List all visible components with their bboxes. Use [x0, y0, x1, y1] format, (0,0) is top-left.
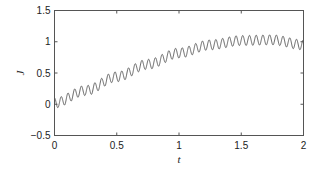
y-axis-ticks: −0.500.511.5 — [31, 5, 304, 141]
j-curve — [55, 35, 304, 108]
data-series-j — [55, 35, 304, 108]
y-tick-label: 1 — [45, 36, 51, 47]
x-axis-label: t — [177, 153, 181, 165]
y-tick-label: 0 — [45, 99, 51, 110]
x-tick-label: 1 — [176, 140, 182, 151]
line-chart: 00.511.52 −0.500.511.5 t J — [0, 0, 317, 171]
y-tick-label: 1.5 — [37, 5, 51, 16]
x-tick-label: 0 — [52, 140, 58, 151]
x-tick-label: 1.5 — [234, 140, 248, 151]
plot-area-frame — [55, 11, 304, 136]
y-tick-label: −0.5 — [31, 130, 51, 141]
x-axis-ticks: 00.511.52 — [52, 11, 307, 151]
chart: 00.511.52 −0.500.511.5 t J — [0, 0, 317, 171]
y-tick-label: 0.5 — [37, 68, 51, 79]
x-tick-label: 0.5 — [110, 140, 124, 151]
x-tick-label: 2 — [301, 140, 307, 151]
y-axis-label: J — [14, 69, 26, 75]
